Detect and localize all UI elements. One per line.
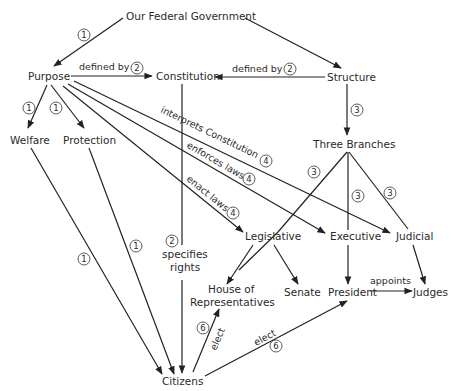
badge-specifies: 2 [166, 235, 178, 247]
label-defined-by-purpose: defined by [79, 61, 130, 72]
label-defined-by-structure: defined by [232, 63, 283, 74]
edge-citizens-president [205, 301, 347, 376]
badge-structure-branches: 3 [351, 104, 363, 116]
edge-purpose-executive [68, 84, 325, 233]
svg-text:3: 3 [354, 105, 359, 115]
node-three-branches: Three Branches [312, 138, 395, 150]
edge-government-purpose [54, 18, 123, 66]
svg-text:3: 3 [355, 191, 360, 201]
node-president: President [328, 286, 377, 298]
badge-purpose-welfare: 1 [23, 102, 35, 114]
badge-branches-judicial: 3 [384, 187, 396, 199]
node-specifies-line1: specifies [162, 248, 208, 260]
node-specifies-line2: rights [170, 261, 200, 273]
label-enact-laws: enact laws [185, 173, 231, 214]
node-constitution: Constitution [156, 70, 220, 82]
svg-text:3: 3 [387, 188, 392, 198]
badge-structure-constitution: 2 [284, 63, 296, 75]
edge-legislative-senate [274, 245, 298, 284]
node-protection: Protection [63, 134, 116, 146]
label-appoints: appoints [370, 275, 411, 286]
badge-branches-legislative: 3 [308, 166, 320, 178]
svg-text:2: 2 [287, 64, 292, 74]
node-government: Our Federal Government [126, 10, 256, 22]
svg-text:1: 1 [53, 103, 58, 113]
svg-text:1: 1 [133, 241, 138, 251]
node-senate: Senate [284, 286, 321, 298]
badge-enforces: 4 [243, 173, 255, 185]
svg-text:1: 1 [81, 30, 86, 40]
node-judicial: Judicial [395, 230, 433, 242]
edge-government-structure [245, 18, 341, 68]
node-executive: Executive [330, 230, 381, 242]
svg-text:2: 2 [169, 236, 174, 246]
svg-text:4: 4 [246, 174, 251, 184]
nodes: Our Federal Government Purpose Constitut… [10, 10, 448, 387]
edge-legislative-house [227, 245, 253, 284]
edge-branches-legislative [278, 152, 347, 232]
node-citizens: Citizens [162, 375, 203, 387]
badge-elect-house: 6 [197, 322, 209, 334]
edge-judicial-judges [413, 245, 425, 284]
svg-text:2: 2 [134, 63, 139, 73]
node-welfare: Welfare [10, 134, 50, 146]
svg-text:3: 3 [311, 167, 316, 177]
badge-elect-president: 6 [270, 340, 282, 352]
badge-branches-executive: 3 [352, 190, 364, 202]
edge-labels: defined by defined by interprets Constit… [79, 61, 411, 352]
node-house-line2: Representatives [190, 296, 275, 308]
svg-text:1: 1 [26, 103, 31, 113]
edge-protection-citizens [89, 148, 174, 374]
node-purpose: Purpose [28, 70, 70, 82]
badge-enact: 4 [227, 207, 239, 219]
node-house-line1: House of [208, 283, 255, 295]
badge-purpose-constitution: 2 [131, 62, 143, 74]
badge-welfare-citizens: 1 [78, 253, 90, 265]
badge-purpose-protection: 1 [50, 102, 62, 114]
edge-welfare-citizens [31, 148, 162, 374]
svg-text:1: 1 [81, 254, 86, 264]
node-legislative: Legislative [245, 230, 301, 242]
svg-text:6: 6 [200, 323, 205, 333]
badge-protection-citizens: 1 [130, 240, 142, 252]
node-structure: Structure [327, 71, 376, 83]
badge-interprets: 4 [260, 155, 272, 167]
svg-text:4: 4 [230, 208, 235, 218]
svg-text:6: 6 [273, 341, 278, 351]
federal-government-concept-map: Our Federal Government Purpose Constitut… [0, 0, 451, 391]
node-judges: Judges [412, 286, 448, 298]
svg-text:4: 4 [263, 156, 268, 166]
badge-gov-purpose: 1 [78, 29, 90, 41]
